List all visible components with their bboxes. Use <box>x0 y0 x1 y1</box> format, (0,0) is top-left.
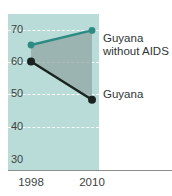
point-guyana-1998 <box>27 58 35 66</box>
series-label-guyana-without-aids: Guyana without AIDS <box>103 32 171 58</box>
life-expectancy-chart: 70 60 50 40 30 1998 2010 Guyana without … <box>0 0 172 196</box>
point-guyana-2010 <box>88 96 96 104</box>
series-label-guyana: Guyana <box>103 88 169 101</box>
aids-gap-area <box>31 30 92 99</box>
point-no-aids-1998 <box>28 42 35 49</box>
point-no-aids-2010 <box>89 27 96 34</box>
